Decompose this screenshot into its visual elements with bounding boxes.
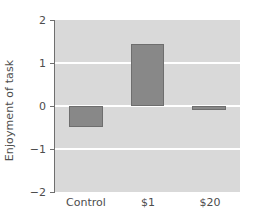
x-tick-label-1dollar: $1	[141, 196, 155, 209]
y-tick-label: 1	[22, 57, 46, 70]
gridline-neg1	[55, 148, 240, 150]
y-tick-label: −1	[22, 143, 46, 156]
x-axis-tick-labels: Control $1 $20	[55, 196, 240, 216]
bar-chart-figure: Enjoyment of task 2 1 0 −1 −2 Control $1…	[0, 0, 254, 221]
bar-dollar1	[131, 44, 165, 106]
y-tick-label: 2	[22, 14, 46, 27]
y-axis-tick-mark	[50, 192, 54, 193]
x-tick-label-control: Control	[66, 196, 106, 209]
y-axis-tick-mark	[50, 20, 54, 21]
y-axis-tick-mark	[50, 149, 54, 150]
y-tick-label: 0	[22, 100, 46, 113]
y-axis-tick-mark	[50, 106, 54, 107]
plot-area	[55, 20, 240, 192]
y-tick-label: −2	[22, 186, 46, 199]
x-tick-label-20dollar: $20	[200, 196, 221, 209]
y-axis-label: Enjoyment of task	[0, 0, 18, 221]
bar-control	[69, 106, 103, 127]
y-axis-tick-mark	[50, 63, 54, 64]
y-axis-tick-labels: 2 1 0 −1 −2	[22, 0, 46, 221]
bar-dollar20	[192, 106, 226, 110]
